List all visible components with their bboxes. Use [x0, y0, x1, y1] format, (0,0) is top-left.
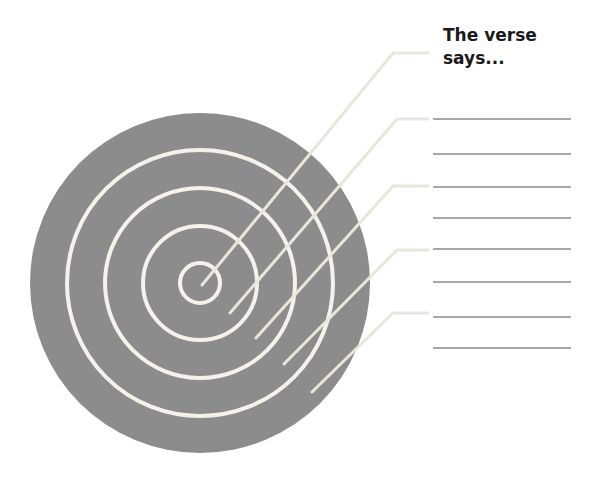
- target-diagram: [0, 0, 596, 480]
- answer-lines: [433, 119, 571, 348]
- target-disk: [30, 113, 370, 453]
- diagram-title: The verse says...: [443, 24, 583, 70]
